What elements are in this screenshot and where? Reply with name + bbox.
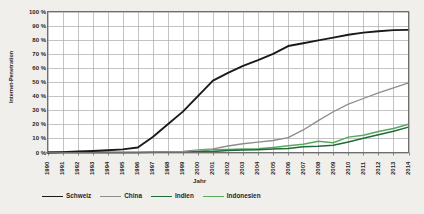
legend-item-china: China bbox=[100, 193, 142, 199]
legend-item-schweiz: Schweiz bbox=[42, 193, 91, 199]
legend-label: China bbox=[124, 193, 142, 199]
x-tick-label: 1991 bbox=[59, 162, 65, 175]
x-tick-label: 1990 bbox=[44, 162, 50, 175]
x-tick-label: 2002 bbox=[224, 162, 230, 175]
x-axis-ticks: 1990199119921993199419951996199719981999… bbox=[0, 0, 424, 214]
x-tick-label: 2014 bbox=[405, 162, 411, 175]
x-tick-label: 1994 bbox=[104, 162, 110, 175]
legend-label: Schweiz bbox=[66, 193, 91, 199]
x-tick-label: 2008 bbox=[315, 162, 321, 175]
legend-swatch-icon bbox=[42, 196, 63, 197]
x-tick-label: 2000 bbox=[194, 162, 200, 175]
x-tick-label: 1999 bbox=[179, 162, 185, 175]
legend-label: Indien bbox=[175, 193, 194, 199]
x-tick-label: 1998 bbox=[164, 162, 170, 175]
x-tick-label: 2011 bbox=[360, 162, 366, 175]
x-tick-label: 2005 bbox=[270, 162, 276, 175]
chart-container: 0 %10 %20 %30 %40 %50 %60 %70 %80 %90 %1… bbox=[0, 0, 424, 214]
y-axis-title: Internet-Penetration bbox=[8, 22, 14, 132]
legend-item-indien: Indien bbox=[151, 193, 194, 199]
chart-legend: SchweizChinaIndienIndonesien bbox=[42, 193, 261, 199]
x-tick-label: 1995 bbox=[119, 162, 125, 175]
legend-swatch-icon bbox=[203, 196, 224, 197]
x-tick-label: 2001 bbox=[209, 162, 215, 175]
x-tick-label: 2003 bbox=[239, 162, 245, 175]
x-tick-label: 2007 bbox=[300, 162, 306, 175]
legend-swatch-icon bbox=[100, 196, 121, 197]
legend-swatch-icon bbox=[151, 196, 172, 197]
x-tick-label: 1997 bbox=[149, 162, 155, 175]
x-tick-label: 2006 bbox=[285, 162, 291, 175]
x-tick-label: 2012 bbox=[375, 162, 381, 175]
x-tick-label: 2013 bbox=[390, 162, 396, 175]
x-tick-label: 1996 bbox=[134, 162, 140, 175]
x-tick-label: 2004 bbox=[254, 162, 260, 175]
legend-label: Indonesien bbox=[227, 193, 261, 199]
x-tick-label: 1992 bbox=[74, 162, 80, 175]
legend-item-indonesien: Indonesien bbox=[203, 193, 261, 199]
x-tick-label: 2010 bbox=[345, 162, 351, 175]
x-axis-title: Jahr bbox=[193, 177, 206, 184]
x-tick-label: 2009 bbox=[330, 162, 336, 175]
x-tick-label: 1993 bbox=[89, 162, 95, 175]
